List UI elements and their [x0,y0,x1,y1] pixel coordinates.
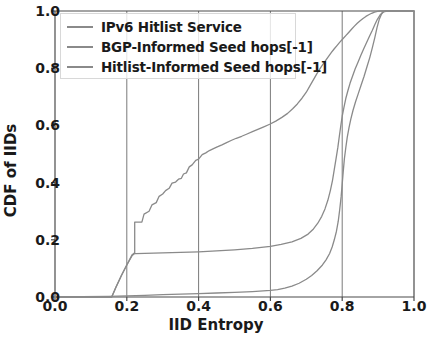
x-tick-label: 1.0 [402,298,427,314]
x-axis-label: IID Entropy [0,316,432,334]
legend-item-ipv6-hitlist-service: IPv6 Hitlist Service [67,17,242,37]
legend-label-bgp-informed-seed: BGP-Informed Seed hops[-1] [101,39,313,55]
y-tick-label: 0.4 [35,175,60,191]
cdf-chart-figure: CDF of IIDs IID Entropy 0.00.20.40.60.81… [0,0,432,341]
legend-line-icon-hitlist-informed-seed [67,66,93,68]
legend-item-bgp-informed-seed: BGP-Informed Seed hops[-1] [67,37,313,57]
legend-line-icon-ipv6-hitlist-service [67,26,93,28]
legend-line-icon-bgp-informed-seed [67,46,93,48]
y-tick-label: 0.0 [35,289,60,305]
legend-item-hitlist-informed-seed: Hitlist-Informed Seed hops[-1] [67,57,327,77]
x-tick-label: 0.2 [114,298,139,314]
y-tick-label: 1.0 [35,3,60,19]
y-tick-label: 0.8 [35,60,60,76]
x-tick-label: 0.6 [258,298,283,314]
y-tick-label: 0.6 [35,117,60,133]
legend-label-hitlist-informed-seed: Hitlist-Informed Seed hops[-1] [101,59,327,75]
x-tick-label: 0.4 [186,298,211,314]
legend-label-ipv6-hitlist-service: IPv6 Hitlist Service [101,19,242,35]
legend: IPv6 Hitlist Service BGP-Informed Seed h… [60,13,296,79]
y-axis-label-container: CDF of IIDs [2,0,20,341]
y-axis-label: CDF of IIDs [2,0,20,341]
x-tick-label: 0.8 [330,298,355,314]
y-tick-label: 0.2 [35,232,60,248]
